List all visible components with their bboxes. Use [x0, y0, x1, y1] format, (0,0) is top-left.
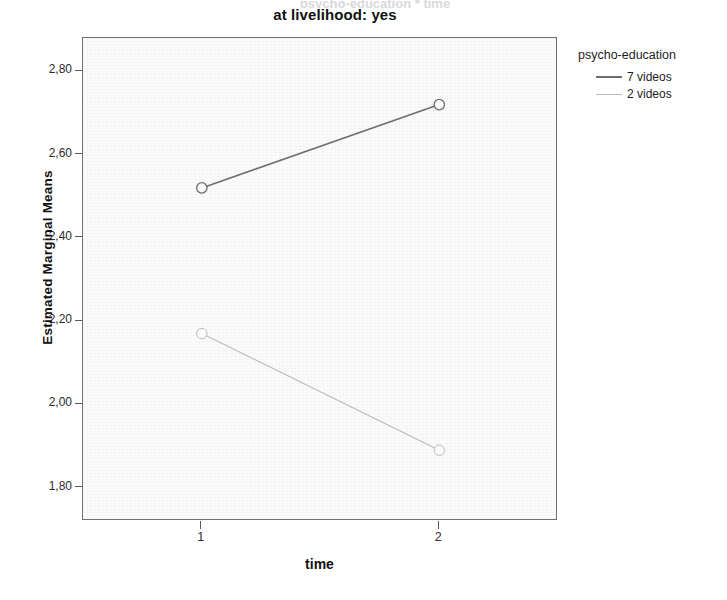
legend-line-icon: [596, 76, 622, 78]
x-axis-title: time: [82, 556, 557, 572]
legend-line-icon: [596, 94, 622, 95]
legend-title: psycho-education: [578, 48, 726, 62]
plot-svg: [83, 38, 558, 521]
y-tick-mark: [75, 486, 82, 487]
series-line: [202, 105, 439, 188]
legend-item-1: 7 videos: [596, 70, 726, 84]
y-tick-label-text: 2,00: [32, 395, 72, 409]
x-tick-label: 1: [181, 530, 221, 544]
y-tick-label: 2,00: [28, 395, 72, 409]
y-tick-mark: [75, 70, 82, 71]
x-tick-mark: [438, 521, 439, 529]
chart-title: at livelihood: yes: [120, 6, 550, 23]
chart-figure: psycho-education * time at livelihood: y…: [0, 0, 727, 600]
y-tick-mark: [75, 403, 82, 404]
y-tick-label: 2,80: [28, 62, 72, 76]
series-2: [197, 328, 445, 455]
y-tick-label-text: 2,80: [32, 62, 72, 76]
legend: psycho-education 7 videos2 videos: [578, 48, 726, 104]
y-axis-title: Estimated Marginal Means: [40, 128, 55, 388]
x-tick-mark: [200, 521, 201, 529]
y-tick-mark: [75, 236, 82, 237]
data-point-marker: [197, 328, 207, 338]
legend-item-label: 2 videos: [627, 87, 672, 101]
x-tick-label: 2: [418, 530, 458, 544]
plot-area: [82, 37, 557, 520]
series-1: [197, 99, 445, 193]
y-tick-mark: [75, 153, 82, 154]
data-point-marker: [434, 99, 444, 109]
data-point-marker: [197, 183, 207, 193]
y-tick-mark: [75, 320, 82, 321]
legend-item-2: 2 videos: [596, 87, 726, 101]
series-line: [202, 334, 439, 451]
y-tick-label: 1,80: [28, 479, 72, 493]
y-tick-label-text: 1,80: [32, 479, 72, 493]
legend-item-label: 7 videos: [627, 70, 672, 84]
data-point-marker: [434, 445, 444, 455]
legend-entries: 7 videos2 videos: [578, 70, 726, 101]
